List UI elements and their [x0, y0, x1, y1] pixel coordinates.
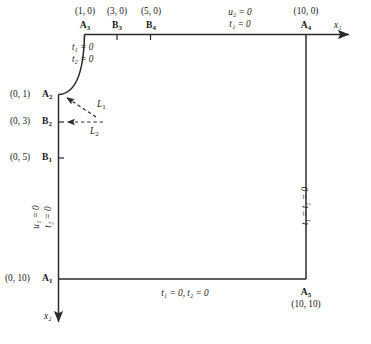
load-label-L1: L1: [97, 99, 106, 111]
coord-B3: (3, 0): [100, 6, 134, 17]
node-B2: B2: [42, 115, 52, 128]
bc-top-edge-line2: t₁ = 0: [212, 18, 268, 30]
node-A2: A2: [42, 88, 52, 101]
bc-corner-arc-line2: t₂ = 0: [72, 53, 93, 65]
coord-B4: (5, 0): [134, 6, 168, 17]
bc-top-edge: u₂ = 0 t₁ = 0: [212, 6, 268, 30]
node-B1: B1: [42, 151, 52, 164]
node-A3: A3: [68, 19, 102, 32]
bc-corner-arc: t₁ = 0 t₂ = 0: [72, 41, 93, 65]
coord-A3: (1, 0): [68, 6, 102, 17]
node-B3: B3: [100, 19, 134, 32]
load-arrow-L1: [67, 98, 97, 118]
coord-A2: (0, 1): [10, 89, 30, 100]
bc-left-edge-line2: t₂ = 0: [42, 189, 54, 245]
bc-top-edge-line1: u₂ = 0: [212, 6, 268, 18]
axis-x1-label: x₁: [334, 20, 341, 31]
figure-canvas: (1, 0) A3 (3, 0) B3 (5, 0) B4 (10, 0) A4…: [0, 0, 371, 344]
node-B4: B4: [134, 19, 168, 32]
bc-left-edge: u₁ = 0 t₂ = 0: [30, 189, 54, 245]
domain-outline: [59, 35, 307, 280]
coord-A4: (10, 0): [289, 6, 323, 17]
node-A1: A1: [42, 272, 52, 285]
node-A4: A4: [289, 19, 323, 32]
coord-A5: (10, 10): [283, 299, 329, 310]
bc-left-edge-line1: u₁ = 0: [30, 189, 42, 245]
bc-bottom-edge: t₁ = 0, t₂ = 0: [135, 288, 235, 299]
bc-corner-arc-line1: t₁ = 0: [72, 41, 93, 53]
coord-B2: (0, 3): [10, 116, 30, 127]
load-label-L2: L2: [90, 126, 99, 138]
axis-x2-label: x₂: [44, 311, 51, 322]
node-A5: A5: [289, 286, 323, 299]
coord-A1: (0, 10): [5, 273, 30, 284]
coord-B1: (0, 5): [10, 152, 30, 163]
bc-right-edge: t₁ = t₂ = 0: [300, 187, 311, 225]
